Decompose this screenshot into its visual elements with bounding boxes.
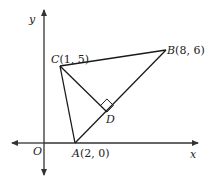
- triangle-diagram: y x O C(1, 5) B(8, 6) A(2, 0) D: [0, 0, 218, 192]
- point-a-label: A(2, 0): [71, 147, 110, 160]
- y-axis-label: y: [28, 13, 36, 26]
- x-axis-label: x: [190, 148, 197, 161]
- point-d-label: D: [105, 113, 115, 126]
- origin-label: O: [33, 145, 42, 158]
- point-c-label: C(1, 5): [51, 53, 89, 66]
- point-b-label: B(8, 6): [166, 44, 205, 57]
- segment-ca: [60, 66, 75, 143]
